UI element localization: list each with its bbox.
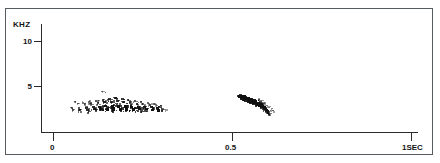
y-tick-mark-10 (34, 41, 42, 42)
x-tick-mark-1sec (411, 132, 412, 141)
x-axis-line (41, 132, 418, 133)
y-tick-mark-5 (34, 86, 42, 87)
x-tick-label-1sec: 1SEC (402, 143, 423, 152)
x-tick-mark-0 (53, 132, 54, 141)
spectrogram-figure: KHZ 10 5 0 0.5 1SEC (0, 0, 440, 163)
x-tick-label-0: 0 (50, 143, 54, 152)
y-axis-unit-label: KHZ (13, 20, 30, 29)
y-tick-label-10: 10 (10, 37, 32, 46)
x-tick-mark-0p5 (232, 132, 233, 141)
y-tick-label-5: 5 (10, 82, 32, 91)
x-tick-label-0p5: 0.5 (225, 143, 236, 152)
